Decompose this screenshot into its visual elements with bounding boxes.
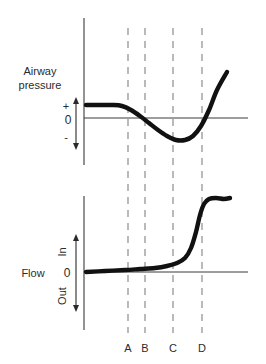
- marker-lines-group: [128, 28, 202, 333]
- airway-pressure-flow-figure: + 0 - Airway pressure In 0 Out Flow: [0, 0, 266, 364]
- marker-labels-group: A B C D: [124, 342, 206, 354]
- pressure-scale-arrow: [73, 97, 79, 150]
- flow-curve: [86, 198, 230, 272]
- flow-scale-arrow: [73, 234, 79, 312]
- pressure-axis-label-line2: pressure: [19, 79, 62, 91]
- marker-label-a: A: [124, 342, 132, 354]
- pressure-negative-label: -: [64, 131, 68, 143]
- pressure-arrow-head-down: [73, 143, 79, 150]
- pressure-positive-label: +: [63, 100, 69, 112]
- flow-in-label: In: [56, 247, 68, 256]
- flow-out-label: Out: [56, 287, 68, 305]
- flow-arrow-head-down: [73, 305, 79, 312]
- pressure-curve: [86, 72, 227, 141]
- figure-svg: + 0 - Airway pressure In 0 Out Flow: [0, 0, 266, 364]
- pressure-panel: + 0 - Airway pressure: [19, 18, 248, 165]
- pressure-arrow-head-up: [73, 97, 79, 104]
- flow-zero-label: 0: [64, 266, 71, 280]
- marker-label-d: D: [198, 342, 206, 354]
- flow-axis-label: Flow: [21, 267, 44, 279]
- marker-label-c: C: [169, 342, 177, 354]
- pressure-axis-label-line1: Airway: [23, 65, 57, 77]
- flow-panel: In 0 Out Flow: [21, 196, 248, 330]
- pressure-zero-label: 0: [65, 113, 72, 127]
- flow-arrow-head-up: [73, 234, 79, 241]
- marker-label-b: B: [141, 342, 148, 354]
